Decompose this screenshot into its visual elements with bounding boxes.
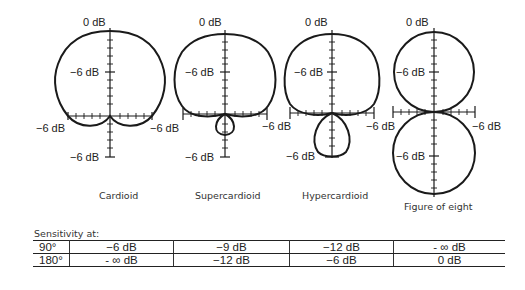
cardioid-cell: −6 dB (70, 241, 174, 254)
hypercardioid-label-bottom: −6 dB (286, 151, 315, 162)
cardioid-label-top: 0 dB (83, 17, 106, 28)
cardioid-caption: Cardioid (99, 191, 138, 201)
table-row: 180° - ∞ dB −12 dB −6 dB 0 dB (33, 254, 505, 267)
angle-cell: 180° (33, 254, 70, 267)
supercardioid-caption: Supercardioid (195, 191, 261, 201)
figure-eight-cell: - ∞ dB (394, 241, 506, 254)
hypercardioid-label-left: −6 dB (262, 121, 291, 132)
cardioid-axes (68, 28, 152, 157)
cardioid-label-bottom: −6 dB (70, 152, 99, 163)
supercardioid-label-bottom: −6 dB (185, 152, 214, 163)
supercardioid-cell: −12 dB (174, 254, 290, 267)
hypercardioid-caption: Hypercardioid (302, 191, 368, 201)
figure-eight-label-bottom: −6 dB (396, 151, 425, 162)
supercardioid-cell: −9 dB (174, 241, 290, 254)
hypercardioid-cell: −6 dB (290, 254, 394, 267)
figure-eight-label-right: −6 dB (472, 121, 501, 132)
supercardioid-label-top: 0 dB (199, 17, 222, 28)
cardioid-label-left: −6 dB (36, 123, 65, 134)
figure-eight-cell: 0 dB (394, 254, 506, 267)
hypercardioid-label-right: −6 dB (366, 121, 395, 132)
supercardioid-label-mid: −6 dB (185, 67, 214, 78)
figure-eight-label-top: 0 dB (406, 17, 429, 28)
supercardioid-axes (183, 30, 267, 157)
cardioid-cell: - ∞ dB (70, 254, 174, 267)
sensitivity-table: 90° −6 dB −9 dB −12 dB - ∞ dB 180° - ∞ d… (33, 240, 505, 267)
sensitivity-title: Sensitivity at: (34, 228, 99, 239)
cardioid-label-mid: −6 dB (70, 67, 99, 78)
hypercardioid-cell: −12 dB (290, 241, 394, 254)
hypercardioid-label-top: 0 dB (305, 17, 328, 28)
hypercardioid-axes (290, 30, 374, 158)
angle-cell: 90° (33, 241, 70, 254)
figure-eight-caption: Figure of eight (404, 202, 472, 212)
figure-eight-label-mid: −6 dB (396, 67, 425, 78)
table-row: 90° −6 dB −9 dB −12 dB - ∞ dB (33, 241, 505, 254)
hypercardioid-label-mid: −6 dB (294, 67, 323, 78)
cardioid-label-right: −6 dB (150, 123, 179, 134)
